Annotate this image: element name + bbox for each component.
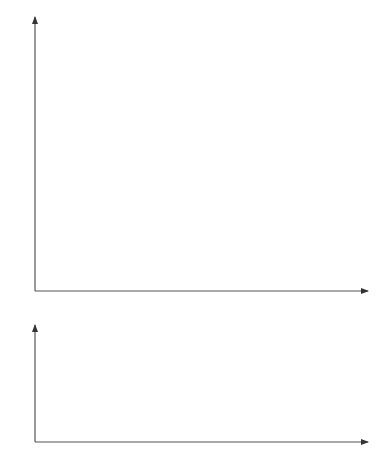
figure <box>0 0 379 468</box>
bottom-chart <box>0 0 368 442</box>
top-chart <box>0 0 368 291</box>
